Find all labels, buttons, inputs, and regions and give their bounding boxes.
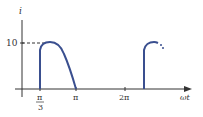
waveform-pulse-2 [144, 42, 158, 89]
x-tick-label-pi-over-3-numerator: π [37, 93, 42, 102]
x-tick-label-2pi: 2π [119, 93, 129, 102]
waveform-chart: i 10 π 3 π 2π ωt [0, 0, 203, 117]
x-axis-label: ωt [180, 93, 191, 102]
waveform-pulse-1 [40, 42, 76, 89]
y-tick-label-10: 10 [6, 38, 18, 48]
continuation-dot [162, 47, 164, 49]
y-axis-label: i [19, 6, 22, 16]
x-tick-label-pi: π [73, 93, 78, 102]
continuation-dot [160, 44, 162, 46]
x-tick-label-pi-over-3-denominator: 3 [38, 103, 43, 112]
x-axis-arrow-icon [184, 86, 192, 92]
